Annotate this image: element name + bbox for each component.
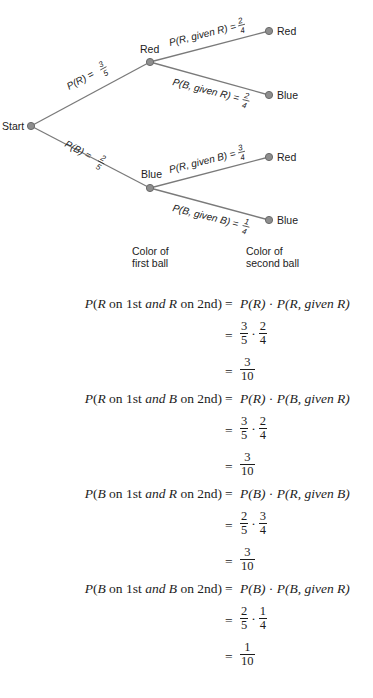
equation-3-result: = 310	[0, 546, 373, 576]
node-blue-blue	[265, 216, 272, 223]
second-blue-red-label: Red	[277, 151, 296, 163]
caption-second-ball: Color of second ball	[246, 245, 299, 269]
node-red-blue	[265, 91, 272, 98]
equation-rhs: P(R) · P(R, given R)	[240, 296, 350, 312]
fraction: 35	[240, 320, 248, 347]
fraction: 25	[240, 510, 248, 537]
equals-sign: =	[225, 518, 233, 534]
edge-denominator: 4	[241, 227, 248, 237]
second-blue-blue-label: Blue	[277, 214, 298, 226]
result-fraction: 110	[240, 641, 255, 668]
edge-label-start-blue: P(B) = 2 5	[61, 135, 109, 172]
equals-sign: =	[225, 364, 233, 380]
node-first-blue	[146, 184, 153, 191]
edge-denominator: 4	[239, 152, 246, 162]
second-red-red-label: Red	[277, 25, 296, 37]
node-start	[27, 122, 34, 129]
equals-sign: =	[225, 423, 233, 439]
second-red-blue-label: Blue	[277, 89, 298, 101]
result-fraction: 310	[240, 356, 255, 383]
edge-numerator: 1	[244, 217, 250, 227]
equals-sign: =	[225, 296, 233, 312]
edge-numerator: 3	[237, 143, 244, 153]
fraction: 34	[259, 510, 267, 537]
edge-prefix: P(B, given R) =	[172, 76, 241, 103]
equation-1-step: = 35·24	[0, 320, 373, 350]
equation-lhs: P(B on 1st and B on 2nd)	[85, 581, 222, 597]
edge-denominator: 5	[102, 68, 111, 78]
equation-lhs: P(R on 1st and R on 2nd)	[85, 296, 222, 312]
node-first-red	[146, 58, 153, 65]
edge-denominator: 5	[94, 162, 103, 172]
equation-3-step: = 25·34	[0, 510, 373, 540]
tree-nodes	[27, 27, 272, 223]
equals-sign: =	[225, 459, 233, 475]
start-label: Start	[2, 120, 24, 132]
equation-rhs: P(B) · P(B, given R)	[240, 581, 350, 597]
edge-label-blue-red: P(R, given B) = 3 4	[167, 142, 247, 179]
fraction: 24	[259, 320, 267, 347]
fraction: 35	[240, 415, 248, 442]
fraction: 24	[259, 415, 267, 442]
edge-prefix: P(B) =	[63, 138, 94, 161]
edge-denominator: 4	[241, 101, 248, 111]
first-red-label: Red	[140, 43, 159, 55]
node-red-red	[265, 27, 272, 34]
step-product: 35·24	[240, 415, 267, 442]
equals-sign: =	[225, 391, 233, 407]
edge-numerator: 2	[236, 16, 244, 26]
equation-2-result: = 310	[0, 451, 373, 481]
result-fraction: 310	[240, 546, 255, 573]
step-product: 25·14	[240, 605, 267, 632]
caption-line: second ball	[246, 257, 299, 269]
equation-lhs: P(B on 1st and R on 2nd)	[85, 486, 222, 502]
equals-sign: =	[225, 613, 233, 629]
equation-4-result: = 110	[0, 641, 373, 671]
step-product: 35·24	[240, 320, 267, 347]
node-blue-red	[265, 153, 272, 160]
result-fraction: 310	[240, 451, 255, 478]
equals-sign: =	[225, 649, 233, 665]
caption-line: first ball	[132, 257, 169, 269]
probability-tree-diagram: Start Red Blue Red Blue Red Blue P(R) = …	[0, 0, 373, 290]
equation-4-step: = 25·14	[0, 605, 373, 635]
equals-sign: =	[225, 581, 233, 597]
caption-first-ball: Color of first ball	[132, 245, 169, 269]
caption-line: Color of	[132, 245, 169, 257]
edge-prefix: P(B, given B) =	[172, 202, 240, 229]
equals-sign: =	[225, 554, 233, 570]
equals-sign: =	[225, 328, 233, 344]
equation-2-step: = 35·24	[0, 415, 373, 445]
step-product: 25·34	[240, 510, 267, 537]
edge-prefix: P(R) =	[65, 68, 96, 91]
fraction: 14	[259, 605, 267, 632]
first-blue-label: Blue	[141, 168, 162, 180]
equation-1-result: = 310	[0, 356, 373, 386]
fraction: 25	[240, 605, 248, 632]
edge-numerator: 2	[243, 91, 251, 101]
edge-prefix: P(R, given B) =	[168, 148, 237, 175]
edge-denominator: 4	[239, 25, 246, 35]
edge-label-start-red: P(R) = 3 5	[63, 59, 111, 96]
caption-line: Color of	[246, 245, 299, 257]
equation-lhs: P(R on 1st and B on 2nd)	[85, 391, 222, 407]
edge-prefix: P(R, given R) =	[168, 21, 237, 48]
equals-sign: =	[225, 486, 233, 502]
equation-rhs: P(B) · P(R, given B)	[240, 486, 350, 502]
equation-rhs: P(R) · P(B, given R)	[240, 391, 350, 407]
